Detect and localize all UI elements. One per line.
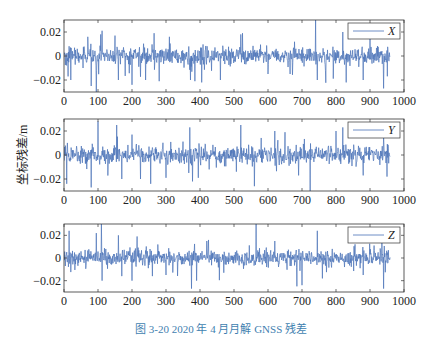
y-tick-label: −0.02 [33, 274, 61, 288]
x-tick-label: 500 [225, 193, 243, 207]
figure-canvas: 01002003004005006007008009001000−0.0200.… [0, 0, 442, 318]
y-tick-label: 0.02 [40, 228, 61, 242]
y-tick-label: −0.02 [33, 73, 61, 87]
legend-label: X [387, 24, 396, 38]
y-axis-label: 坐标残差/m [16, 124, 30, 185]
x-tick-label: 600 [259, 193, 277, 207]
x-tick-label: 500 [225, 94, 243, 108]
x-tick-label: 700 [293, 193, 311, 207]
legend: X [348, 23, 400, 39]
x-tick-label: 1000 [392, 294, 416, 308]
x-tick-label: 600 [259, 294, 277, 308]
x-tick-label: 900 [361, 193, 379, 207]
x-tick-label: 0 [61, 294, 67, 308]
x-tick-label: 100 [89, 94, 107, 108]
y-tick-label: 0 [55, 148, 61, 162]
y-tick-label: 0 [55, 251, 61, 265]
x-tick-label: 0 [61, 193, 67, 207]
legend: Z [348, 227, 400, 243]
x-tick-label: 900 [361, 294, 379, 308]
data-line-x [64, 20, 390, 92]
x-tick-label: 500 [225, 294, 243, 308]
x-tick-label: 600 [259, 94, 277, 108]
x-tick-label: 400 [191, 294, 209, 308]
x-tick-label: 200 [123, 294, 141, 308]
x-tick-label: 200 [123, 94, 141, 108]
x-tick-label: 700 [293, 94, 311, 108]
legend: Y [348, 122, 400, 138]
subplot-y: 01002003004005006007008009001000−0.0200.… [33, 119, 416, 207]
x-tick-label: 300 [157, 193, 175, 207]
figure-caption: 图 3-20 2020 年 4 月月解 GNSS 残差 [0, 320, 442, 336]
x-tick-label: 900 [361, 94, 379, 108]
y-tick-label: 0 [55, 49, 61, 63]
y-tick-label: 0.02 [40, 124, 61, 138]
y-tick-label: 0.02 [40, 25, 61, 39]
x-tick-label: 300 [157, 94, 175, 108]
data-line-z [64, 224, 390, 289]
x-tick-label: 100 [89, 193, 107, 207]
x-tick-label: 800 [327, 193, 345, 207]
x-tick-label: 100 [89, 294, 107, 308]
x-tick-label: 700 [293, 294, 311, 308]
x-tick-label: 400 [191, 193, 209, 207]
subplot-x: 01002003004005006007008009001000−0.0200.… [33, 20, 416, 108]
x-tick-label: 0 [61, 94, 67, 108]
subplot-z: 01002003004005006007008009001000−0.0200.… [33, 224, 416, 308]
x-tick-label: 800 [327, 294, 345, 308]
data-line-y [64, 121, 390, 191]
x-tick-label: 300 [157, 294, 175, 308]
y-tick-label: −0.02 [33, 172, 61, 186]
legend-label: Z [388, 228, 395, 242]
x-tick-label: 1000 [392, 94, 416, 108]
x-tick-label: 800 [327, 94, 345, 108]
x-tick-label: 1000 [392, 193, 416, 207]
x-tick-label: 200 [123, 193, 141, 207]
x-tick-label: 400 [191, 94, 209, 108]
